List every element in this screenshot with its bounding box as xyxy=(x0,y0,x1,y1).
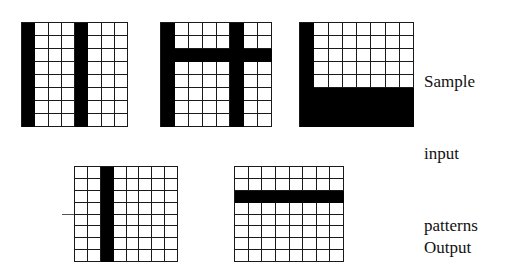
pattern-cell xyxy=(235,191,249,203)
pattern-cell xyxy=(262,167,276,179)
pattern-cell xyxy=(230,114,244,127)
pattern-figure: Sample input patterns Output Patterns xyxy=(0,0,518,269)
pattern-cell xyxy=(161,49,175,62)
pattern-cell xyxy=(235,238,249,250)
pattern-cell xyxy=(114,167,127,179)
pattern-cell xyxy=(317,179,331,191)
pattern-cell xyxy=(114,203,127,215)
pattern-cell xyxy=(258,49,272,62)
pattern-cell xyxy=(102,114,115,127)
pattern-cell xyxy=(276,226,290,238)
label-line: Sample xyxy=(424,70,478,94)
pattern-cell xyxy=(262,179,276,191)
pattern-cell xyxy=(115,75,128,88)
pattern-cell xyxy=(303,167,317,179)
pattern-cell xyxy=(88,75,101,88)
pattern-cell xyxy=(249,238,263,250)
pattern-cell xyxy=(300,101,314,114)
pattern-cell xyxy=(203,36,217,49)
pattern-cell xyxy=(139,215,152,227)
pattern-cell xyxy=(127,226,140,238)
pattern-cell xyxy=(235,167,249,179)
pattern-cell xyxy=(300,88,314,101)
pattern-cell xyxy=(49,36,62,49)
pattern-cell xyxy=(49,62,62,75)
pattern-cell xyxy=(115,36,128,49)
pattern-cell xyxy=(244,49,258,62)
pattern-cell xyxy=(290,191,304,203)
pattern-cell xyxy=(330,179,344,191)
pattern-cell xyxy=(203,75,217,88)
pattern-cell xyxy=(62,75,75,88)
pattern-cell xyxy=(88,101,101,114)
pattern-cell xyxy=(276,238,290,250)
pattern-cell xyxy=(203,49,217,62)
pattern-cell xyxy=(88,226,101,238)
pattern-cell xyxy=(75,49,88,62)
pattern-cell xyxy=(75,238,88,250)
label-line: Output xyxy=(424,236,479,260)
pattern-cell xyxy=(35,114,48,127)
pattern-cell xyxy=(262,191,276,203)
pattern-cell xyxy=(300,114,314,127)
pattern-cell xyxy=(314,114,328,127)
pattern-cell xyxy=(49,23,62,36)
pattern-cell xyxy=(175,36,189,49)
pattern-cell xyxy=(152,167,165,179)
pattern-cell xyxy=(75,36,88,49)
pattern-cell xyxy=(317,250,331,262)
pattern-cell xyxy=(330,250,344,262)
pattern-cell xyxy=(262,250,276,262)
pattern-cell xyxy=(357,114,371,127)
pattern-cell xyxy=(75,226,88,238)
pattern-cell xyxy=(330,203,344,215)
pattern-cell xyxy=(75,179,88,191)
pattern-cell xyxy=(371,36,385,49)
pattern-cell xyxy=(300,75,314,88)
pattern-cell xyxy=(258,36,272,49)
pattern-cell xyxy=(217,36,231,49)
pattern-cell xyxy=(262,203,276,215)
pattern-cell xyxy=(329,36,343,49)
pattern-cell xyxy=(249,203,263,215)
pattern-cell xyxy=(102,88,115,101)
pattern-cell xyxy=(88,114,101,127)
pattern-cell xyxy=(276,203,290,215)
pattern-cell xyxy=(161,23,175,36)
pattern-cell xyxy=(217,101,231,114)
input-pattern-grid-l-shape xyxy=(299,22,414,127)
pattern-cell xyxy=(400,49,414,62)
pattern-cell xyxy=(139,250,152,262)
pattern-cell xyxy=(314,75,328,88)
pattern-cell xyxy=(371,23,385,36)
pattern-cell xyxy=(249,215,263,227)
pattern-cell xyxy=(317,167,331,179)
pattern-cell xyxy=(189,49,203,62)
pattern-cell xyxy=(189,75,203,88)
pattern-cell xyxy=(217,88,231,101)
pattern-cell xyxy=(314,36,328,49)
pattern-cell xyxy=(22,88,35,101)
pattern-cell xyxy=(75,88,88,101)
pattern-cell xyxy=(386,75,400,88)
pattern-cell xyxy=(371,62,385,75)
pattern-cell xyxy=(127,191,140,203)
pattern-cell xyxy=(290,203,304,215)
pattern-cell xyxy=(165,191,178,203)
pattern-cell xyxy=(165,226,178,238)
pattern-cell xyxy=(244,36,258,49)
pattern-cell xyxy=(189,101,203,114)
pattern-cell xyxy=(49,75,62,88)
pattern-cell xyxy=(62,114,75,127)
pattern-cell xyxy=(230,62,244,75)
pattern-cell xyxy=(230,75,244,88)
pattern-cell xyxy=(165,203,178,215)
pattern-cell xyxy=(114,191,127,203)
pattern-cell xyxy=(189,23,203,36)
pattern-cell xyxy=(317,226,331,238)
pattern-cell xyxy=(88,49,101,62)
pattern-cell xyxy=(88,36,101,49)
pattern-cell xyxy=(314,62,328,75)
pattern-cell xyxy=(102,49,115,62)
pattern-cell xyxy=(371,75,385,88)
